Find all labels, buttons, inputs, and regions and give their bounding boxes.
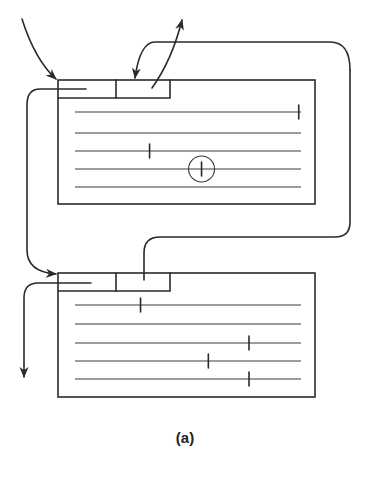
top-block: [58, 80, 315, 204]
diagram-canvas: (a): [0, 0, 370, 482]
bottom-index-tab: [58, 273, 170, 291]
bottom-record-lines: [75, 298, 301, 386]
top-to-bottom-link: [144, 70, 350, 280]
chain-down-arrow: [27, 89, 86, 274]
return-link-arrow: [135, 42, 350, 78]
outgoing-up-arrow: [152, 20, 182, 88]
top-record-lines: [75, 105, 301, 187]
incoming-arrow: [22, 19, 56, 79]
figure-caption: (a): [176, 429, 194, 446]
bottom-block: [58, 273, 315, 397]
